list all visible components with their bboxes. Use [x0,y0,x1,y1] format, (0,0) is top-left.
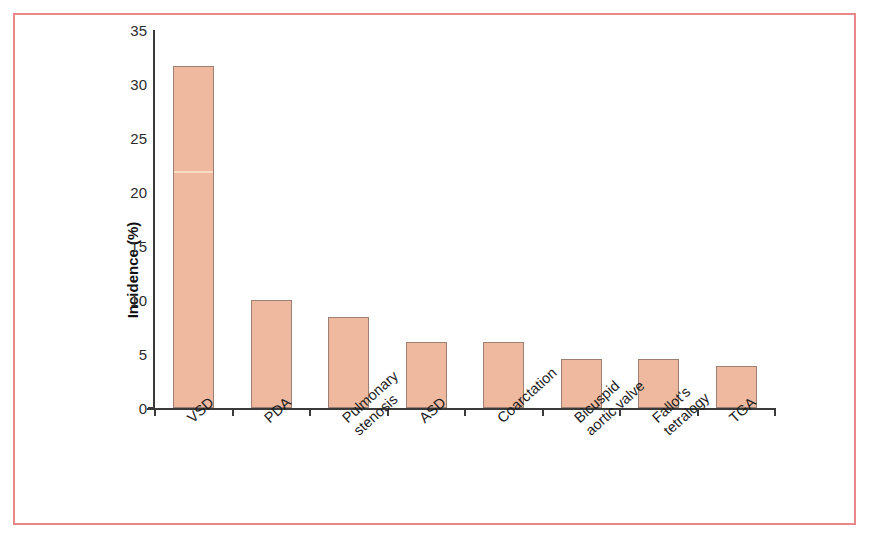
x-axis-tick-mark [464,408,466,416]
y-axis-tick-label: 5 [139,347,147,362]
x-axis-tick-mark [232,408,234,416]
scan-artifact-line [174,171,213,173]
bar [251,300,292,408]
y-axis-tick-label: 10 [130,293,147,308]
bar [173,66,214,408]
x-axis-tick-mark [542,408,544,416]
y-axis-line [153,30,155,408]
figure: Incidence (%) 05101520253035 VSDPDAPulmo… [0,0,870,539]
y-axis-tick-label: 30 [130,77,147,92]
y-axis-tick-label: 35 [130,23,147,38]
x-axis-tick-mark [774,408,776,416]
y-axis-tick-label: 25 [130,131,147,146]
y-axis-tick-label: 0 [139,401,147,416]
x-axis-tick-mark [309,408,311,416]
x-axis-tick-mark [154,408,156,416]
plot-area: 05101520253035 VSDPDAPulmonarystenosisAS… [155,30,775,408]
y-axis-tick-label: 15 [130,239,147,254]
y-axis-tick-label: 20 [130,185,147,200]
